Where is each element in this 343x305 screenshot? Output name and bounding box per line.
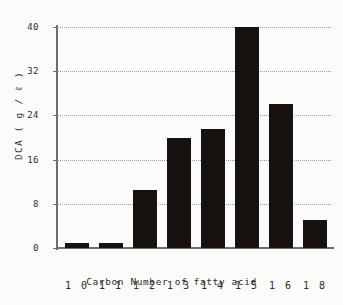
y-tick-label-40: 40: [0, 23, 39, 32]
bar-14: [201, 129, 225, 248]
bar-15: [235, 27, 259, 248]
y-tick-mark-16: [53, 160, 57, 161]
bar-16: [269, 104, 293, 248]
bar-13: [167, 138, 191, 249]
bar-chart-figure: DCA ( g / ℓ ) 40 32 24 16 8 0 1 0: [0, 0, 343, 305]
y-tick-mark-8: [53, 204, 57, 205]
bar-11: [99, 243, 123, 248]
gridline-40: [57, 27, 331, 28]
y-tick-label-16: 16: [0, 156, 39, 165]
bar-10: [65, 243, 89, 248]
y-tick-label-24: 24: [0, 111, 39, 120]
bar-18: [303, 220, 327, 248]
plot-area: 40 32 24 16 8 0 1 0 1 1 1 2 1 3 1 4 1 5 …: [57, 27, 331, 248]
y-tick-label-0: 0: [0, 244, 39, 253]
y-tick-label-32: 32: [0, 67, 39, 76]
y-tick-mark-0: [53, 248, 57, 249]
gridline-32: [57, 71, 331, 72]
y-tick-mark-32: [53, 71, 57, 72]
y-tick-label-8: 8: [0, 200, 39, 209]
y-tick-mark-24: [53, 115, 57, 116]
bar-12: [133, 190, 157, 248]
x-axis-title: Carbon Number of fatty acid: [0, 276, 343, 287]
y-tick-mark-40: [53, 27, 57, 28]
